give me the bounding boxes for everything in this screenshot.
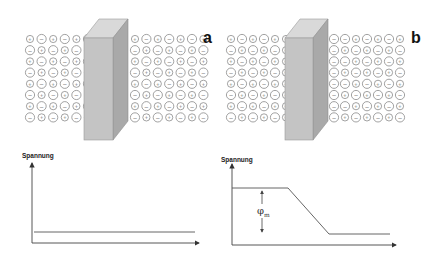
svg-text:−: − [343,81,348,87]
anion-icon: − [199,68,208,77]
svg-text:+: + [190,115,194,120]
membrane-front-b [285,38,313,140]
cation-icon: + [154,80,161,87]
cation-icon: + [143,114,150,121]
svg-text:−: − [144,104,149,110]
panel-b: +−+−++−+−+−++−+−++−+−+−++−+−++−+−+−++−+−… [221,19,421,245]
cation-icon: + [249,103,256,110]
cation-icon: + [188,47,195,54]
svg-text:−: − [387,36,392,42]
anion-icon: − [187,57,196,66]
svg-text:−: − [39,59,44,65]
cation-icon: + [238,114,245,121]
svg-text:+: + [179,104,183,109]
anion-icon: − [176,46,185,55]
anion-icon: − [384,57,393,66]
svg-text:−: − [332,81,337,87]
anion-icon: − [153,46,162,55]
phi-subscript: m [264,211,270,218]
svg-text:+: + [28,59,32,64]
anion-icon: − [362,57,371,66]
cation-icon: + [50,58,57,65]
svg-text:−: − [28,92,33,98]
anion-icon: − [72,46,81,55]
cation-icon: + [61,69,68,76]
cation-icon: + [260,47,267,54]
svg-text:−: − [39,104,44,110]
anion-icon: − [329,90,338,99]
cation-icon: + [385,69,392,76]
svg-text:−: − [62,59,67,65]
svg-text:−: − [51,48,56,54]
cation-icon: + [385,114,392,121]
svg-text:−: − [144,81,149,87]
svg-text:+: + [63,93,67,98]
svg-text:−: − [28,70,33,76]
svg-text:−: − [62,81,67,87]
svg-text:+: + [63,70,67,75]
anion-icon: − [395,68,404,77]
svg-text:−: − [273,92,278,98]
svg-text:+: + [51,104,55,109]
anion-icon: − [142,102,151,111]
anion-icon: − [49,113,58,122]
svg-text:+: + [343,48,347,53]
cation-icon: + [260,69,267,76]
cation-icon: + [188,114,195,121]
anion-icon: − [60,79,69,88]
svg-text:+: + [202,104,206,109]
svg-text:−: − [39,81,44,87]
anion-icon: − [60,57,69,66]
anion-icon: − [187,34,196,43]
cation-icon: + [363,114,370,121]
svg-text:−: − [332,115,337,121]
svg-text:+: + [354,37,358,42]
svg-text:+: + [251,59,255,64]
anion-icon: − [142,79,151,88]
cation-icon: + [396,80,403,87]
svg-text:+: + [376,37,380,42]
membrane-block-a [84,19,128,140]
svg-text:−: − [251,70,256,76]
cation-icon: + [341,114,348,121]
cation-icon: + [50,35,57,42]
cation-icon: + [131,58,138,65]
anion-icon: − [259,79,268,88]
svg-text:−: − [178,115,183,121]
svg-text:+: + [167,70,171,75]
graph-b: Spannung φ m [221,156,396,245]
svg-text:+: + [398,104,402,109]
cation-icon: + [143,69,150,76]
cation-icon: + [385,91,392,98]
svg-text:+: + [167,93,171,98]
anion-icon: − [237,102,246,111]
svg-text:+: + [365,70,369,75]
svg-text:−: − [387,81,392,87]
cation-icon: + [73,58,80,65]
anion-icon: − [270,113,279,122]
svg-text:−: − [28,48,33,54]
cation-icon: + [341,91,348,98]
svg-text:−: − [155,92,160,98]
cation-icon: + [363,91,370,98]
svg-text:+: + [133,82,137,87]
anion-icon: − [60,34,69,43]
svg-text:+: + [273,59,277,64]
anion-icon: − [37,57,46,66]
cation-icon: + [61,91,68,98]
cation-icon: + [131,35,138,42]
cation-icon: + [238,91,245,98]
anion-icon: − [130,46,139,55]
svg-text:+: + [262,93,266,98]
svg-text:−: − [251,115,256,121]
anion-icon: − [373,113,382,122]
cation-icon: + [227,35,234,42]
svg-text:+: + [343,70,347,75]
svg-text:−: − [240,36,245,42]
ions-left-b: +−+−++−+−+−++−+−++−+−+−++−+−++−+−+−++−+−… [226,34,289,122]
svg-text:+: + [133,59,137,64]
anion-icon: − [226,113,235,122]
svg-text:+: + [133,104,137,109]
voltage-curve-b [232,188,390,234]
cation-icon: + [227,58,234,65]
